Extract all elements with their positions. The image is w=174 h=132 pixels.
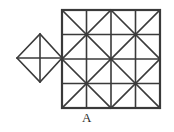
- square-grid-group: [62, 10, 160, 108]
- rhombus-group: [17, 34, 62, 82]
- figure-container: A: [0, 0, 174, 132]
- figure-caption-label: A: [0, 110, 174, 125]
